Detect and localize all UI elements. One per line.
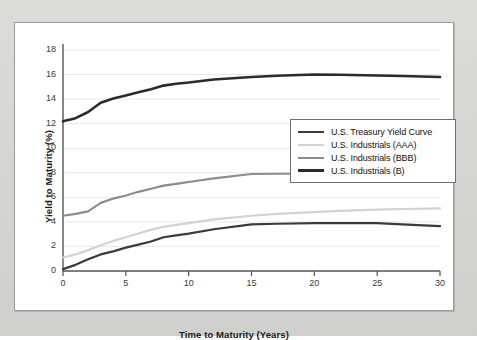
x-tick-label: 20 [302,278,326,288]
y-tick-label: 2 [34,240,56,250]
legend-swatch-line-icon [298,131,324,133]
legend-label: U.S. Industrials (BBB) [331,153,416,163]
legend-item: U.S. Industrials (BBB) [298,151,449,164]
y-tick-label: 10 [34,142,56,152]
chart-panel: Yield to Maturity (%) Time to Maturity (… [14,22,454,311]
x-tick-label: 10 [177,278,201,288]
legend-label: U.S. Industrials (B) [331,166,405,176]
y-tick-label: 8 [34,167,56,177]
legend-item: U.S. Industrials (B) [298,164,449,177]
legend-item: U.S. Treasury Yield Curve [298,125,449,138]
legend-swatch-line-icon [298,144,324,146]
legend-label: U.S. Industrials (AAA) [331,140,416,150]
y-tick-label: 0 [34,265,56,275]
y-tick-label: 6 [34,191,56,201]
y-tick-label: 18 [34,44,56,54]
y-tick-label: 12 [34,118,56,128]
x-tick-label: 0 [51,278,75,288]
y-tick-label: 16 [34,69,56,79]
y-tick-label: 14 [34,93,56,103]
series-line-3 [63,75,440,122]
legend-swatch-line-icon [298,169,324,172]
x-tick-label: 30 [428,278,452,288]
x-axis-title: Time to Maturity (Years) [15,329,453,340]
x-tick-label: 15 [240,278,264,288]
legend-item: U.S. Industrials (AAA) [298,138,449,151]
legend-label: U.S. Treasury Yield Curve [331,127,432,137]
chart-legend: U.S. Treasury Yield CurveU.S. Industrial… [290,119,456,183]
x-tick-label: 25 [365,278,389,288]
legend-swatch-line-icon [298,157,324,159]
y-tick-label: 4 [34,216,56,226]
x-tick-label: 5 [114,278,138,288]
